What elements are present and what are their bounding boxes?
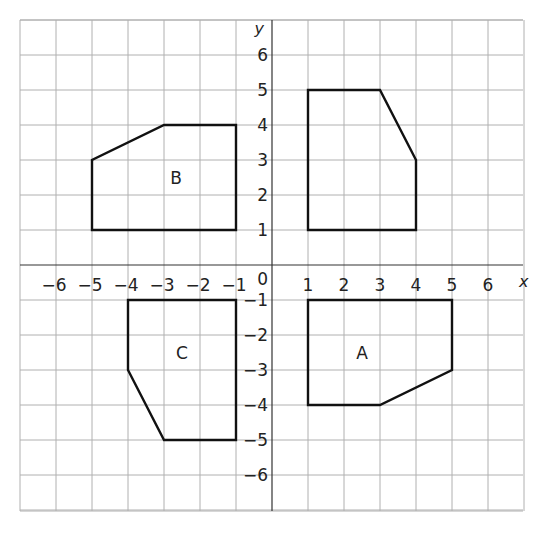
- y-tick-label: 1: [257, 220, 268, 240]
- y-tick-label: −4: [243, 395, 268, 415]
- x-tick-label: 5: [447, 275, 458, 295]
- x-tick-label: −4: [113, 275, 138, 295]
- y-tick-label: −1: [243, 290, 268, 310]
- x-tick-label: 1: [303, 275, 314, 295]
- y-tick-label: 2: [257, 185, 268, 205]
- y-tick-label: −5: [243, 430, 268, 450]
- shape-label-a: A: [356, 343, 368, 363]
- y-tick-label: −2: [243, 325, 268, 345]
- y-tick-label: −6: [243, 465, 268, 485]
- x-axis-label: x: [518, 272, 529, 291]
- x-tick-label: −6: [41, 275, 66, 295]
- x-tick-label: −2: [185, 275, 210, 295]
- y-tick-label: 5: [257, 80, 268, 100]
- coordinate-grid: −6−5−4−3−2−1123456654321−1−2−3−4−5−60xy …: [0, 0, 544, 534]
- y-tick-label: 3: [257, 150, 268, 170]
- x-tick-label: 3: [375, 275, 386, 295]
- axes: [20, 20, 523, 511]
- x-tick-label: 6: [483, 275, 494, 295]
- y-tick-label: 6: [257, 45, 268, 65]
- x-tick-label: −3: [149, 275, 174, 295]
- shape-label-b: B: [170, 168, 182, 188]
- y-axis-label: y: [254, 19, 265, 38]
- tick-labels: −6−5−4−3−2−1123456654321−1−2−3−4−5−60xy: [41, 19, 529, 485]
- x-tick-label: 4: [411, 275, 422, 295]
- origin-label: 0: [257, 269, 268, 289]
- y-tick-label: 4: [257, 115, 268, 135]
- x-tick-label: −5: [77, 275, 102, 295]
- x-tick-label: 2: [339, 275, 350, 295]
- y-tick-label: −3: [243, 360, 268, 380]
- shape-label-c: C: [176, 343, 188, 363]
